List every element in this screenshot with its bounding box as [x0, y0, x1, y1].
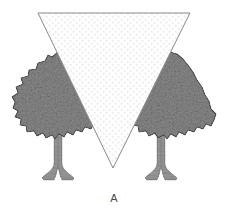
- figure-label: A: [0, 192, 228, 204]
- figure-panel: A: [0, 0, 228, 215]
- figure-illustration: [0, 0, 228, 215]
